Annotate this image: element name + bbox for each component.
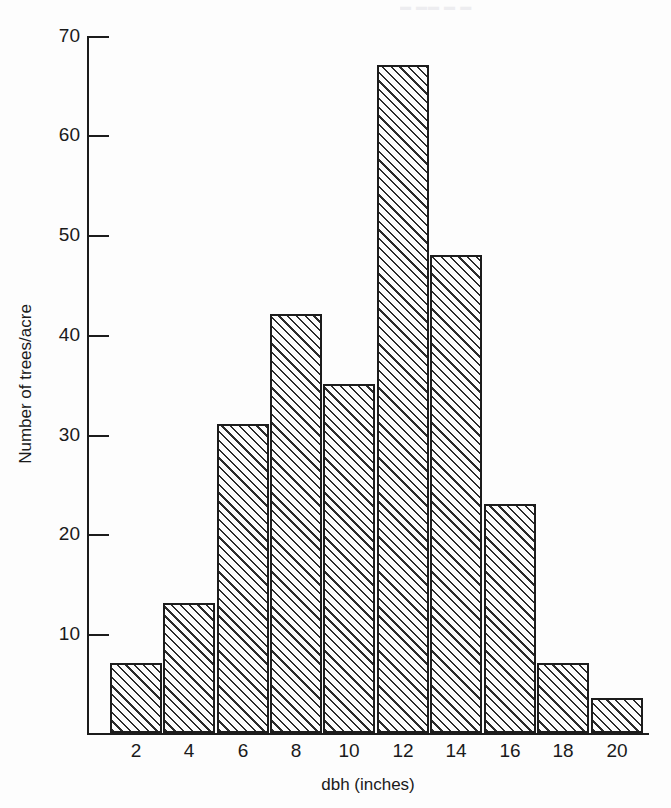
y-tick-label: 10 [40,624,80,643]
x-tick-label: 16 [484,740,536,763]
y-tick-label: 50 [40,225,80,244]
y-tick-mark [89,335,109,337]
bar-16[interactable] [484,504,536,733]
x-tick-label: 12 [377,740,429,763]
bar-2[interactable] [110,663,162,733]
bar-8[interactable] [270,314,322,733]
x-tick-label: 8 [270,740,322,763]
x-axis-title: dbh (inches) [87,775,649,795]
y-tick-mark [89,36,109,38]
bar-14[interactable] [430,255,482,733]
x-axis-line [87,733,649,735]
x-tick-label: 4 [163,740,215,763]
y-tick-mark [89,135,109,137]
x-tick-label: 18 [537,740,589,763]
y-tick-label: 40 [40,325,80,344]
x-tick-label: 14 [430,740,482,763]
y-axis-title: Number of trees/acre [16,234,36,534]
x-tick-label: 10 [323,740,375,763]
plot-area: 70 60 50 40 30 20 10 Number of trees/acr… [0,0,671,808]
y-tick-label: 70 [40,26,80,45]
bar-18[interactable] [537,663,589,733]
bar-10[interactable] [323,384,375,733]
y-tick-mark [89,534,109,536]
bar-4[interactable] [163,603,215,733]
bar-12[interactable] [377,65,429,733]
y-tick-label: 60 [40,125,80,144]
x-tick-label: 6 [217,740,269,763]
chart-page: ▬ ▬▬ ▬ ▬ 70 60 50 40 30 20 10 Number of … [0,0,671,808]
x-tick-label: 2 [110,740,162,763]
y-tick-mark [89,634,109,636]
y-tick-label: 20 [40,524,80,543]
bar-6[interactable] [217,424,269,733]
x-tick-label: 20 [591,740,643,763]
y-tick-mark [89,435,109,437]
y-tick-mark [89,235,109,237]
bar-20[interactable] [591,698,643,733]
y-axis-line [87,36,89,735]
y-tick-label: 30 [40,425,80,444]
